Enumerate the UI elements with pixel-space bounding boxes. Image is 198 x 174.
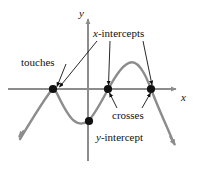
leader-xintercepts-left [60,41,98,87]
label-y-intercept: y-intercept [96,132,143,143]
leader-crosses-middle [110,93,118,108]
dot-left-x-intercept [49,85,57,93]
polynomial-graph-figure: touches x-intercepts crosses y-intercept… [0,0,198,174]
leader-touches [57,64,66,87]
label-y-axis: y [79,8,84,19]
leader-crosses-right [142,93,151,108]
label-touches: touches [21,57,55,68]
dot-right-x-intercept [147,85,155,93]
label-x-intercepts: x-intercepts [93,28,144,39]
label-x-axis: x [181,92,186,103]
leader-xintercepts-middle [109,41,111,85]
dot-y-intercept [85,117,93,125]
dot-middle-x-intercept [104,85,112,93]
label-crosses: crosses [112,110,144,121]
